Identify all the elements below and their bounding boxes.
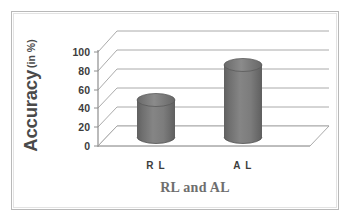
y-tick-label-40: 40 [60,102,90,114]
x-axis-title: RL and AL [95,180,295,196]
y-tick-label-100: 100 [60,46,90,58]
y-axis-title-unit: (in %) [25,39,37,68]
x-category-label-al: A L [213,160,273,171]
y-tick-label-60: 60 [60,84,90,96]
y-tick-label-0: 0 [60,140,90,152]
x-category-label-rl: R L [126,160,186,171]
y-axis-title-text: Accuracy [20,70,42,152]
y-tick-label-20: 20 [60,121,90,133]
chart-3d-floor [98,126,329,146]
y-tick-label-80: 80 [60,65,90,77]
chart-figure: Accuracy (in %) 100 80 60 40 20 0 R L A … [0,0,353,222]
chart-bar-cylinder-al [224,59,262,144]
chart-y-axis [94,50,98,147]
y-axis-title: Accuracy (in %) [18,38,44,153]
chart-bar-cylinder-rl [137,94,175,144]
